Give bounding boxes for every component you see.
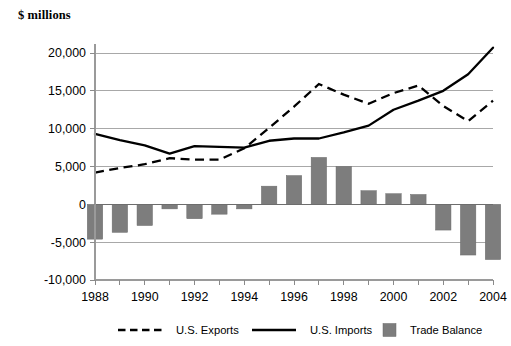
y-tick-label: -10,000 — [44, 273, 86, 287]
axes-group — [90, 44, 493, 285]
bar — [361, 191, 376, 205]
lines-group — [95, 48, 493, 173]
x-tick-label: 2004 — [479, 290, 507, 304]
bar — [411, 194, 426, 204]
legend-swatch-trade-balance — [383, 324, 396, 337]
bar — [386, 194, 401, 205]
x-tick-labels-group: 198819901992199419961998200020022004 — [81, 290, 507, 304]
bar — [212, 204, 227, 214]
bars-group — [87, 157, 500, 259]
trade-balance-chart: 20,00015,00010,0005,0000-5,000-10,000 19… — [0, 0, 511, 346]
y-tick-label: 15,000 — [48, 84, 86, 98]
x-tick-label: 2002 — [429, 290, 457, 304]
y-tick-label: 20,000 — [48, 46, 86, 60]
bar — [137, 204, 152, 225]
bar — [336, 167, 351, 205]
y-tick-label: 0 — [79, 198, 86, 212]
chart-legend: U.S. ExportsU.S. ImportsTrade Balance — [118, 324, 482, 337]
bar — [286, 176, 301, 205]
bar — [162, 204, 177, 209]
imports-line — [95, 48, 493, 154]
x-tick-label: 1998 — [330, 290, 358, 304]
x-tick-label: 1996 — [280, 290, 308, 304]
bar — [112, 204, 127, 232]
bar — [485, 204, 500, 259]
bar — [460, 204, 475, 255]
bar — [436, 204, 451, 230]
legend-label: Trade Balance — [410, 324, 482, 336]
x-tick-label: 1988 — [81, 290, 109, 304]
legend-label: U.S. Exports — [176, 324, 239, 336]
bar — [237, 204, 252, 209]
legend-label: U.S. Imports — [310, 324, 373, 336]
bar — [311, 157, 326, 204]
x-tick-label: 2000 — [380, 290, 408, 304]
y-axis-title: $ millions — [18, 8, 71, 23]
bar — [261, 186, 276, 204]
chart-container: $ millions 20,00015,00010,0005,0000-5,00… — [0, 0, 511, 346]
gridlines-group — [95, 53, 493, 280]
x-tick-label: 1990 — [131, 290, 159, 304]
y-tick-label: 10,000 — [48, 122, 86, 136]
y-tick-label: -5,000 — [51, 236, 86, 250]
y-tick-label: 5,000 — [55, 160, 86, 174]
y-tick-labels-group: 20,00015,00010,0005,0000-5,000-10,000 — [44, 46, 86, 287]
x-tick-label: 1992 — [181, 290, 209, 304]
x-tick-label: 1994 — [230, 290, 258, 304]
bar — [187, 204, 202, 218]
